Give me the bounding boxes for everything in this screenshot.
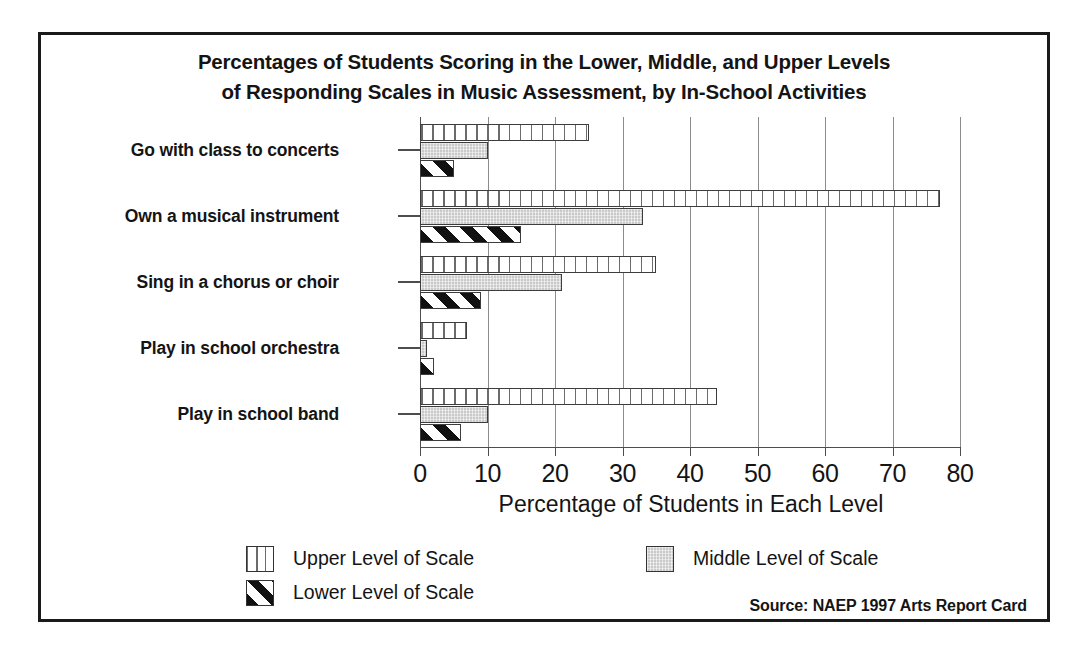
bar-upper-1 [420, 190, 940, 207]
bar-middle-4 [420, 406, 488, 423]
source-note: Source: NAEP 1997 Arts Report Card [749, 597, 1027, 615]
category-label-0: Go with class to concerts [0, 140, 339, 161]
x-tick-label-60: 60 [795, 459, 855, 488]
gridline-60 [825, 117, 826, 447]
x-tick-label-50: 50 [728, 459, 788, 488]
legend-swatch-middle [646, 546, 674, 572]
chart-title-line-1: Percentages of Students Scoring in the L… [41, 47, 1047, 77]
bar-middle-1 [420, 208, 643, 225]
bar-lower-0 [420, 160, 454, 177]
x-tick-30 [623, 447, 624, 456]
bar-lower-1 [420, 226, 521, 243]
bar-lower-3 [420, 358, 434, 375]
gridline-70 [893, 117, 894, 447]
legend-label-lower: Lower Level of Scale [293, 581, 474, 604]
bar-upper-3 [420, 322, 467, 339]
chart-title-line-2: of Responding Scales in Music Assessment… [41, 77, 1047, 107]
x-axis-label: Percentage of Students in Each Level [341, 491, 1041, 518]
x-tick-70 [893, 447, 894, 456]
x-tick-label-30: 30 [593, 459, 653, 488]
y-tick-1 [398, 215, 420, 217]
gridline-50 [758, 117, 759, 447]
x-tick-label-0: 0 [390, 459, 450, 488]
legend-swatch-lower [246, 580, 274, 606]
bar-lower-4 [420, 424, 461, 441]
bar-upper-2 [420, 256, 656, 273]
x-tick-20 [555, 447, 556, 456]
x-tick-label-10: 10 [458, 459, 518, 488]
bar-upper-4 [420, 388, 717, 405]
legend-label-middle: Middle Level of Scale [693, 547, 878, 570]
legend-swatch-upper [246, 546, 274, 572]
category-label-3: Play in school orchestra [0, 338, 339, 359]
x-tick-80 [960, 447, 961, 456]
x-tick-60 [825, 447, 826, 456]
category-label-2: Sing in a chorus or choir [0, 272, 339, 293]
legend-label-upper: Upper Level of Scale [293, 547, 474, 570]
bar-upper-0 [420, 124, 589, 141]
y-tick-0 [398, 149, 420, 151]
bar-middle-2 [420, 274, 562, 291]
x-tick-50 [758, 447, 759, 456]
bar-middle-0 [420, 142, 488, 159]
x-tick-label-80: 80 [930, 459, 990, 488]
chart-figure: Percentages of Students Scoring in the L… [38, 32, 1050, 622]
x-tick-label-40: 40 [660, 459, 720, 488]
bar-lower-2 [420, 292, 481, 309]
y-tick-3 [398, 347, 420, 349]
x-tick-label-70: 70 [863, 459, 923, 488]
y-tick-4 [398, 413, 420, 415]
x-tick-40 [690, 447, 691, 456]
bar-middle-3 [420, 340, 427, 357]
y-tick-2 [398, 281, 420, 283]
x-tick-10 [488, 447, 489, 456]
x-tick-label-20: 20 [525, 459, 585, 488]
gridline-80 [960, 117, 961, 447]
category-label-1: Own a musical instrument [0, 206, 339, 227]
x-tick-0 [420, 447, 421, 456]
category-label-4: Play in school band [0, 404, 339, 425]
chart-title: Percentages of Students Scoring in the L… [41, 47, 1047, 107]
